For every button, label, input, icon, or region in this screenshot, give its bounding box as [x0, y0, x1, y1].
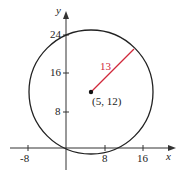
center-point: [89, 90, 93, 94]
coordinate-plane: [0, 0, 184, 176]
x-tick-label: 8: [102, 152, 108, 164]
x-tick-label: -8: [20, 152, 29, 164]
x-axis-label: x: [166, 150, 171, 162]
y-tick-label: 8: [55, 105, 61, 117]
y-tick-label: 24: [50, 28, 61, 40]
y-axis-arrow-icon: [63, 11, 69, 19]
radius-label: 13: [100, 60, 111, 72]
radius-line: [91, 49, 134, 92]
y-axis-label: y: [56, 4, 61, 16]
y-tick-label: 16: [50, 66, 61, 78]
center-label: (5, 12): [92, 95, 121, 107]
x-tick-label: 16: [137, 152, 148, 164]
